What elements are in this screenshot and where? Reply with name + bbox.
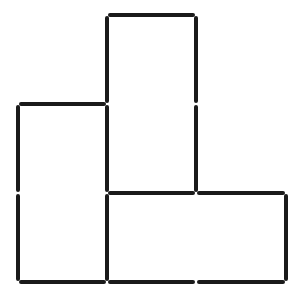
matchstick-figure <box>0 0 302 295</box>
matchstick-diagram <box>0 0 302 295</box>
